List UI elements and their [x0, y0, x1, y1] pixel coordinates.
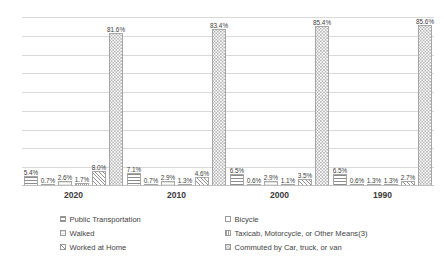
bar-slot: 83.4%: [212, 17, 226, 186]
legend-item[interactable]: Taxicab, Motorcycle, or Other Means(3): [225, 226, 367, 240]
axis-baseline: [22, 185, 434, 186]
legend-swatch-icon: [225, 216, 231, 222]
bar-slot: 0.7%: [144, 17, 158, 186]
bar-slot: 2.9%: [264, 17, 278, 186]
bar-slot: 3.5%: [298, 17, 312, 186]
bar-slot: 4.6%: [195, 17, 209, 186]
bar-value-label: 8.0%: [92, 164, 107, 171]
bar-slot: 8.0%: [92, 17, 106, 186]
bar-slot: 6.5%: [230, 17, 244, 186]
bar-slot: 5.4%: [24, 17, 38, 186]
bar-slot: 1.3%: [178, 17, 192, 186]
bar-value-label: 0.7%: [144, 177, 159, 184]
legend-column-left: Public TransportationWalkedWorked at Hom…: [60, 212, 141, 254]
bar-value-label: 1.1%: [281, 177, 296, 184]
bar-value-label: 2.9%: [264, 174, 279, 181]
bar-slot: 2.6%: [58, 17, 72, 186]
bar-value-label: 85.6%: [416, 18, 434, 25]
bar-value-label: 1.3%: [178, 177, 193, 184]
legend-label: Commuted by Car, truck, or van: [235, 243, 342, 252]
bar-group: 5.4%0.7%2.6%1.7%8.0%81.6%: [22, 17, 125, 186]
x-axis-tick-labels: 2020201020001990: [22, 188, 434, 204]
bar-slot: 1.3%: [367, 17, 381, 186]
bar[interactable]: 81.6%: [109, 33, 123, 186]
bar-chart: 5.4%0.7%2.6%1.7%8.0%81.6%7.1%0.7%2.9%1.3…: [0, 0, 444, 259]
bar-value-label: 0.6%: [350, 177, 365, 184]
bar[interactable]: 85.4%: [315, 26, 329, 186]
plot-area: 5.4%0.7%2.6%1.7%8.0%81.6%7.1%0.7%2.9%1.3…: [22, 17, 434, 186]
bar-slot: 1.7%: [75, 17, 89, 186]
bar-slot: 81.6%: [109, 17, 123, 186]
bar-slot: 0.6%: [247, 17, 261, 186]
legend-column-right: BicycleTaxicab, Motorcycle, or Other Mea…: [225, 212, 367, 254]
bar-value-label: 2.9%: [161, 174, 176, 181]
legend-item[interactable]: Worked at Home: [60, 240, 141, 254]
x-axis-label-2010: 2010: [125, 188, 228, 204]
bar-value-label: 3.5%: [298, 172, 313, 179]
bar-value-label: 0.7%: [41, 177, 56, 184]
bar-value-label: 1.3%: [384, 177, 399, 184]
bar-slot: 2.7%: [401, 17, 415, 186]
legend-swatch-icon: [225, 244, 231, 250]
legend-swatch-icon: [60, 216, 66, 222]
legend-item[interactable]: Bicycle: [225, 212, 367, 226]
x-axis-label-1990: 1990: [331, 188, 434, 204]
bar-value-label: 83.4%: [210, 22, 228, 29]
legend-item[interactable]: Public Transportation: [60, 212, 141, 226]
bar-slot: 2.9%: [161, 17, 175, 186]
chart-legend: Public TransportationWalkedWorked at Hom…: [60, 212, 440, 256]
legend-swatch-icon: [60, 244, 66, 250]
x-axis-label-2020: 2020: [22, 188, 125, 204]
bar-value-label: 1.7%: [75, 176, 90, 183]
bar-slot: 85.6%: [418, 17, 432, 186]
bar-group: 6.5%0.6%2.9%1.1%3.5%85.4%: [228, 17, 331, 186]
bar-value-label: 7.1%: [127, 166, 142, 173]
bar[interactable]: 7.1%: [127, 173, 141, 186]
legend-label: Walked: [70, 229, 95, 238]
bar-group: 7.1%0.7%2.9%1.3%4.6%83.4%: [125, 17, 228, 186]
bar-value-label: 2.6%: [58, 174, 73, 181]
bar-slot: 0.6%: [350, 17, 364, 186]
bar-value-label: 81.6%: [107, 26, 125, 33]
legend-item[interactable]: Walked: [60, 226, 141, 240]
bar-value-label: 0.6%: [247, 177, 262, 184]
bar-slot: 0.7%: [41, 17, 55, 186]
bar-group: 6.5%0.6%1.3%1.3%2.7%85.6%: [331, 17, 434, 186]
bar-value-label: 1.3%: [367, 177, 382, 184]
legend-label: Public Transportation: [70, 215, 141, 224]
x-axis-label-2000: 2000: [228, 188, 331, 204]
bar-value-label: 6.5%: [333, 167, 348, 174]
bar-slot: 1.1%: [281, 17, 295, 186]
bar[interactable]: 83.4%: [212, 29, 226, 186]
legend-swatch-icon: [60, 230, 66, 236]
bar-value-label: 85.4%: [313, 19, 331, 26]
legend-item[interactable]: Commuted by Car, truck, or van: [225, 240, 367, 254]
bar-slot: 85.4%: [315, 17, 329, 186]
bar-groups: 5.4%0.7%2.6%1.7%8.0%81.6%7.1%0.7%2.9%1.3…: [22, 17, 434, 186]
legend-label: Worked at Home: [70, 243, 127, 252]
bar-value-label: 5.4%: [24, 169, 39, 176]
bar[interactable]: 85.6%: [418, 25, 432, 186]
legend-label: Taxicab, Motorcycle, or Other Means(3): [235, 229, 368, 238]
bar-slot: 7.1%: [127, 17, 141, 186]
bar[interactable]: 8.0%: [92, 171, 106, 186]
legend-swatch-icon: [225, 230, 231, 236]
bar-value-label: 4.6%: [195, 170, 210, 177]
bar-value-label: 6.5%: [230, 167, 245, 174]
legend-label: Bicycle: [235, 215, 259, 224]
bar-slot: 1.3%: [384, 17, 398, 186]
bar-value-label: 2.7%: [401, 174, 416, 181]
bar-slot: 6.5%: [333, 17, 347, 186]
